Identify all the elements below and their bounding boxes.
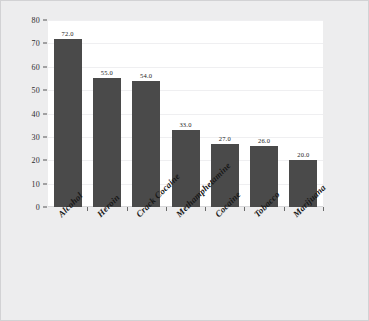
- y-tick-label: 0: [0, 203, 40, 212]
- y-tick-label: 50: [0, 86, 40, 95]
- y-tick-mark: [43, 160, 47, 161]
- gridline: [48, 20, 323, 21]
- y-tick-label: 30: [0, 132, 40, 141]
- y-tick-mark: [43, 66, 47, 67]
- y-tick-label: 40: [0, 109, 40, 118]
- y-tick-mark: [43, 113, 47, 114]
- x-tick-mark: [205, 207, 206, 211]
- y-tick-mark: [43, 136, 47, 137]
- y-tick-mark: [43, 90, 47, 91]
- y-tick-label: 60: [0, 62, 40, 71]
- plot-area: [48, 20, 323, 207]
- y-tick-label: 80: [0, 16, 40, 25]
- bar-value-label: 54.0: [126, 72, 166, 79]
- bar-value-label: 33.0: [166, 121, 206, 128]
- x-tick-mark: [87, 207, 88, 211]
- bar-value-label: 72.0: [48, 30, 88, 37]
- y-tick-label: 20: [0, 156, 40, 165]
- x-tick-mark: [127, 207, 128, 211]
- chart-figure: 72.055.054.033.027.026.020.0 AlcoholHero…: [0, 0, 369, 321]
- bar-value-label: 20.0: [283, 151, 323, 158]
- gridline: [48, 43, 323, 44]
- x-tick-mark: [323, 207, 324, 211]
- bar-value-label: 26.0: [244, 137, 284, 144]
- bar: [93, 78, 121, 207]
- y-tick-label: 70: [0, 39, 40, 48]
- x-tick-mark: [166, 207, 167, 211]
- gridline: [48, 67, 323, 68]
- gridline: [48, 90, 323, 91]
- y-tick-label: 10: [0, 179, 40, 188]
- bar-value-label: 55.0: [87, 69, 127, 76]
- gridline: [48, 114, 323, 115]
- x-tick-mark: [284, 207, 285, 211]
- x-tick-mark: [244, 207, 245, 211]
- y-tick-mark: [43, 20, 47, 21]
- bar-value-label: 27.0: [205, 135, 245, 142]
- y-tick-mark: [43, 43, 47, 44]
- y-tick-mark: [43, 183, 47, 184]
- y-tick-mark: [43, 207, 47, 208]
- bar: [54, 39, 82, 207]
